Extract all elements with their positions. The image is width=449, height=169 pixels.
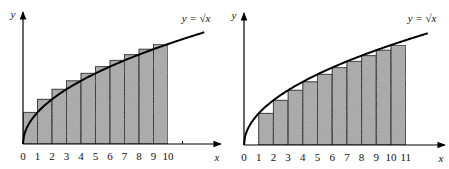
bar-rect xyxy=(154,44,169,144)
x-tick-label: 11 xyxy=(400,151,411,163)
bar-rect xyxy=(362,56,377,145)
bar-rect xyxy=(376,50,391,145)
x-tick-label: 5 xyxy=(93,150,99,162)
x-tick-label: 3 xyxy=(285,151,291,163)
function-label: y = √x xyxy=(407,12,437,24)
x-tick-label: 10 xyxy=(163,150,175,162)
bar-rect xyxy=(23,112,38,144)
bar-rect xyxy=(273,100,288,145)
x-tick-label: 7 xyxy=(344,151,350,163)
bar-rect xyxy=(96,67,111,144)
x-tick-label: 5 xyxy=(315,151,321,163)
bar-rect xyxy=(288,90,303,145)
x-tick-label: 2 xyxy=(271,151,277,163)
bar-rect xyxy=(259,113,274,145)
x-axis-label: x xyxy=(438,152,444,164)
function-label: y = √x xyxy=(181,12,211,24)
x-tick-label: 9 xyxy=(374,151,380,163)
y-axis-label: y xyxy=(231,9,237,21)
x-tick-label: 10 xyxy=(386,151,398,163)
x-tick-label: 7 xyxy=(122,150,128,162)
x-tick-label: 1 xyxy=(35,150,41,162)
left-chart-upper-sum: 012345678910xyy = √x xyxy=(10,8,221,163)
x-tick-label: 1 xyxy=(256,151,262,163)
bar-rect xyxy=(347,61,362,145)
x-tick-label: 4 xyxy=(78,150,84,162)
bar-rect xyxy=(139,49,154,144)
riemann-sum-figure: 012345678910xyy = √x 01234567891011xyy =… xyxy=(0,0,449,169)
x-tick-label: 0 xyxy=(20,150,26,162)
x-tick-label: 3 xyxy=(64,150,70,162)
x-tick-label: 2 xyxy=(49,150,55,162)
bar-rect xyxy=(332,68,347,145)
right-chart-lower-sum: 01234567891011xyy = √x xyxy=(231,9,445,164)
bar-rect xyxy=(81,73,96,144)
bars-group xyxy=(23,44,168,144)
bar-rect xyxy=(110,60,125,144)
bar-rect xyxy=(318,74,333,145)
x-tick-label: 8 xyxy=(359,151,365,163)
x-tick-label: 9 xyxy=(151,150,157,162)
x-tick-label: 0 xyxy=(241,151,247,163)
y-axis-label: y xyxy=(10,8,16,20)
x-tick-label: 4 xyxy=(300,151,306,163)
bar-rect xyxy=(303,82,318,145)
bar-rect xyxy=(391,45,406,145)
x-tick-label: 8 xyxy=(136,150,142,162)
x-tick-label: 6 xyxy=(107,150,113,162)
bar-rect xyxy=(125,55,140,144)
bar-rect xyxy=(67,81,82,144)
x-axis-label: x xyxy=(214,151,220,163)
x-tick-label: 6 xyxy=(329,151,335,163)
